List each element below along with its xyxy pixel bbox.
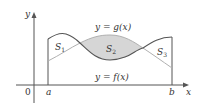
f-curve-label: y = f(x) bbox=[94, 72, 129, 82]
y-axis-arrow-icon bbox=[32, 12, 37, 18]
region-s3-label: S3 bbox=[157, 47, 167, 58]
a-label: a bbox=[46, 87, 51, 97]
origin-label: 0 bbox=[25, 87, 31, 97]
region-s1-label: S1 bbox=[55, 42, 65, 53]
y-axis-label: y bbox=[24, 9, 31, 19]
b-label: b bbox=[169, 87, 175, 97]
g-curve-label: y = g(x) bbox=[94, 22, 132, 32]
area-between-curves-diagram: y x 0 a b y = g(x) y = f(x) S1 S2 S3 bbox=[0, 0, 200, 107]
x-axis-label: x bbox=[186, 87, 191, 97]
